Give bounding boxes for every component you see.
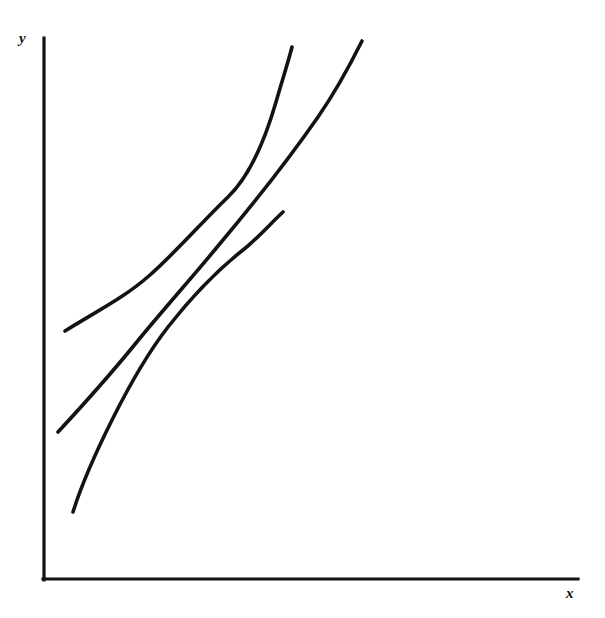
figure-canvas: y x [0, 0, 605, 618]
y-axis-label: y [19, 31, 26, 46]
curve-middle [58, 41, 362, 432]
curve-lower [73, 212, 283, 512]
plot-svg [0, 0, 605, 618]
x-axis-label: x [566, 586, 574, 601]
curve-upper [65, 47, 292, 331]
